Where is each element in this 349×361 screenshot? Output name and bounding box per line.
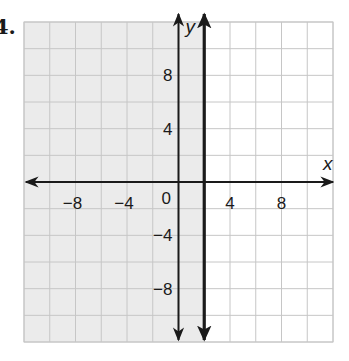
y-tick-label: −4 [153,226,172,245]
x-tick-label: −4 [114,194,133,213]
y-tick-label: −8 [153,280,172,299]
coordinate-plane: −8−448 84−4−8 0 x y [0,0,349,361]
y-tick-label: 8 [163,66,172,85]
x-axis-label: x [322,153,334,174]
y-tick-label: 4 [163,120,172,139]
y-axis-label: y [184,16,197,37]
x-tick-label: 4 [225,194,234,213]
x-tick-label: 8 [277,194,286,213]
x-tick-label: −8 [63,194,82,213]
origin-label: 0 [162,189,171,208]
